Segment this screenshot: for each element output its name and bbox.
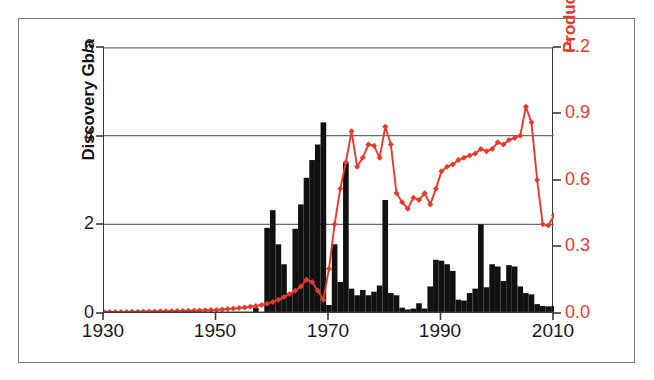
discovery-bar: [281, 264, 287, 313]
chart-screenshot: Discovery Gb/a Production Gb/a 6 4 2 0 1…: [0, 0, 654, 380]
production-marker: [523, 104, 529, 110]
discovery-bar: [332, 244, 338, 313]
x-axis-ticks: [95, 308, 565, 322]
figure: Discovery Gb/a Production Gb/a 6 4 2 0 1…: [0, 0, 654, 380]
discovery-bar: [512, 266, 518, 313]
discovery-bar: [450, 271, 456, 313]
x-axis-tick-2010: 2010: [518, 320, 588, 342]
y-axis-right-tick-0-6: 0.6: [565, 169, 611, 190]
y-axis-right-tick-1-2: 1.2: [565, 36, 611, 57]
y-axis-right-ticks: [548, 40, 568, 320]
discovery-bar: [304, 178, 310, 313]
discovery-bar: [309, 160, 315, 313]
production-line: [104, 107, 554, 312]
production-marker: [467, 153, 473, 159]
x-axis-tick-1970: 1970: [293, 320, 363, 342]
x-axis-tick-1950: 1950: [180, 320, 250, 342]
production-marker: [461, 155, 467, 161]
discovery-bar: [343, 162, 349, 313]
production-marker: [540, 221, 546, 227]
discovery-bar: [270, 210, 276, 313]
discovery-bar: [292, 229, 298, 313]
y-axis-right-tick-0-9: 0.9: [565, 102, 611, 123]
discovery-bar: [382, 200, 388, 313]
discovery-bar: [444, 264, 450, 313]
discovery-bar: [264, 228, 270, 313]
production-marker: [326, 266, 332, 272]
production-marker: [484, 148, 490, 154]
production-marker: [382, 124, 388, 130]
y-axis-left-ticks: [88, 40, 108, 320]
discovery-bar: [478, 224, 484, 313]
production-marker: [377, 155, 383, 161]
production-marker: [371, 143, 377, 149]
discovery-bar: [439, 261, 445, 313]
production-marker: [332, 221, 338, 227]
discovery-bar: [298, 204, 304, 313]
x-axis-tick-1930: 1930: [68, 320, 138, 342]
production-marker: [529, 119, 535, 125]
discovery-bar: [506, 265, 512, 313]
discovery-bar: [489, 264, 495, 313]
production-marker: [517, 133, 523, 139]
production-marker: [534, 177, 540, 183]
discovery-bar: [495, 266, 501, 313]
production-marker: [349, 128, 355, 134]
plot-canvas: [104, 47, 554, 313]
discovery-bar: [433, 260, 439, 313]
production-marker: [337, 186, 343, 192]
plot-area: [103, 47, 553, 313]
x-axis-tick-1990: 1990: [405, 320, 475, 342]
y-axis-right-tick-0-3: 0.3: [565, 235, 611, 256]
production-marker: [365, 142, 371, 148]
production-marker: [433, 186, 439, 192]
production-marker: [388, 142, 394, 148]
discovery-bars: [253, 122, 554, 313]
